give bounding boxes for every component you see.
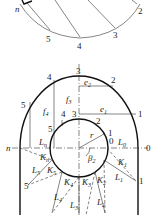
main-view: 0 1 1 2 3 4 5 5 n 0 1 2 3 4 5 e2 e1 f3 f…: [6, 64, 151, 215]
dim-f3: f3: [66, 94, 72, 105]
top-label-4: 4: [77, 41, 82, 51]
outer-label-3: 3: [76, 66, 81, 76]
tri-L5: L5: [31, 165, 40, 176]
dim-Ln: Ln: [38, 137, 47, 148]
dim-r: r: [90, 130, 94, 140]
outer-label-5-lower: 5: [24, 181, 29, 191]
development-diagram: n 2 3 4 5 0 1 1: [0, 0, 162, 215]
tri-L4: L4: [53, 192, 62, 203]
top-corner-2: [132, 0, 137, 4]
dim-e2: e2: [84, 77, 91, 88]
outer-label-1-lower: 1: [139, 176, 144, 186]
top-ellipse-arc: [20, 4, 140, 38]
top-label-2: 2: [138, 6, 143, 16]
top-label-n: n: [15, 4, 20, 14]
tri-L2: L2: [96, 197, 105, 208]
dim-e1: e1: [100, 104, 107, 115]
tri-L3: L3: [69, 200, 78, 211]
inner-label-3: 3: [72, 109, 77, 119]
dim-f4: f4: [43, 106, 49, 117]
outer-label-n: n: [6, 143, 11, 153]
dim-beta2: β2: [87, 153, 95, 164]
top-label-5: 5: [46, 34, 51, 44]
top-view: n 2 3 4 5: [15, 0, 143, 51]
outer-label-1: 1: [138, 109, 143, 119]
tri-K3: K3: [81, 177, 91, 188]
top-label-3: 3: [113, 30, 118, 40]
tri-Kn: Kn: [39, 152, 49, 163]
outer-label-0: 0: [146, 143, 151, 153]
inner-label-5: 5: [48, 124, 53, 134]
inner-label-1: 1: [108, 128, 113, 138]
outer-label-2: 2: [111, 75, 116, 85]
outer-label-5: 5: [21, 100, 26, 110]
inner-label-4: 4: [61, 109, 66, 119]
top-corner-n: [22, 0, 32, 4]
tri-K1: K1: [117, 157, 127, 168]
inner-label-2: 2: [96, 116, 101, 126]
top-line-3: [88, 0, 115, 28]
top-line-5: [27, 3, 50, 30]
tri-K4: K4: [63, 177, 73, 188]
outer-label-4: 4: [47, 72, 52, 82]
dim-L0: L0: [117, 137, 126, 148]
tri-K5: K5: [46, 165, 56, 176]
top-line-4: [55, 0, 80, 37]
tri-L1: L1: [114, 172, 123, 183]
